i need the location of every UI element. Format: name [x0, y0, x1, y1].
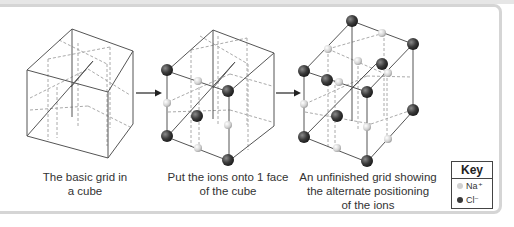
ions-on-face-cube — [161, 30, 274, 166]
na-ion-icon — [457, 183, 463, 189]
caption-basic-grid: The basic grid in a cube — [30, 170, 140, 198]
legend-item-na: Na⁺ — [452, 179, 492, 193]
basic-grid-cube — [27, 29, 133, 158]
caption-ions-on-face: Put the ions onto 1 face of the cube — [163, 170, 293, 198]
arrow-icon — [276, 90, 301, 97]
unfinished-grid-cube — [298, 15, 419, 167]
cl-ion-icon — [457, 197, 463, 203]
legend-item-cl: Cl⁻ — [452, 193, 492, 207]
legend-title: Key — [452, 162, 492, 179]
legend-key: Key Na⁺ Cl⁻ — [451, 161, 493, 209]
caption-unfinished-grid: An unfinished grid showing the alternate… — [298, 170, 438, 212]
arrow-icon — [136, 90, 162, 97]
